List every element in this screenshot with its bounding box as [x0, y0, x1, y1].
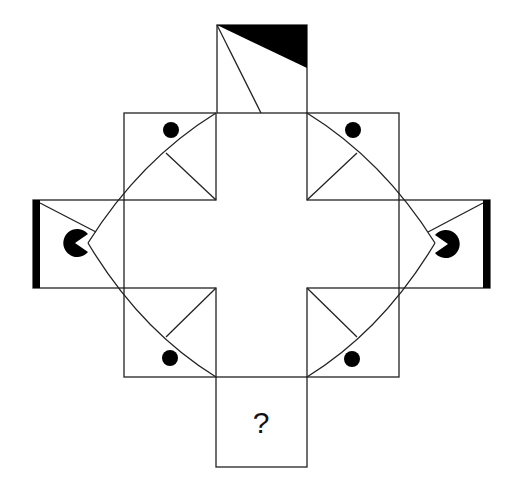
upper-right-line: [307, 153, 357, 200]
left-black-bar: [33, 200, 40, 288]
left-line: [40, 203, 96, 232]
question-mark: ?: [253, 406, 270, 439]
dot-lower-left: [162, 350, 178, 366]
dot-lower-right: [344, 351, 360, 367]
top-black-triangle: [217, 25, 307, 68]
dot-upper-right: [345, 122, 361, 138]
pacman-right-icon: [435, 230, 460, 258]
right-black-bar: [483, 200, 490, 288]
arc-lower-right: [307, 243, 435, 377]
right-line: [428, 203, 483, 232]
cell-right: [399, 200, 490, 288]
lower-right-line: [307, 288, 357, 337]
arc-upper-right: [307, 113, 435, 243]
lower-left-line: [166, 288, 216, 337]
arc-upper-left: [88, 113, 216, 243]
puzzle-diagram: ?: [0, 0, 515, 485]
arc-lower-left: [88, 243, 216, 377]
dot-upper-left: [163, 122, 179, 138]
cell-left: [33, 200, 124, 288]
upper-left-line: [166, 153, 216, 200]
pacman-left-icon: [63, 229, 88, 257]
